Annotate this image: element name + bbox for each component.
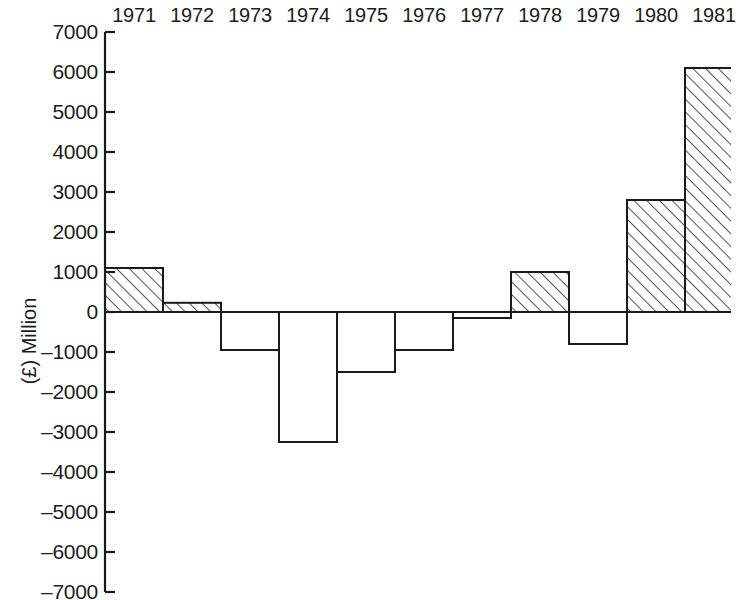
bar [569,312,627,344]
bar [221,312,279,350]
bar [627,200,685,312]
bar [163,303,221,312]
bar [685,68,731,312]
bar [511,272,569,312]
bar [395,312,453,350]
bars-group [105,68,731,442]
bar [453,312,511,318]
bar [105,268,163,312]
bar [279,312,337,442]
bar [337,312,395,372]
y-axis-line-and-ticks [105,32,115,592]
